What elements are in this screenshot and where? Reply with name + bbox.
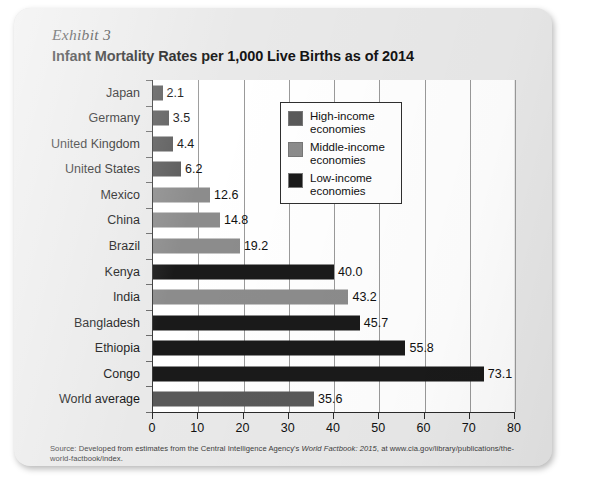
source-prefix: Source: Developed from estimates from th… (50, 444, 302, 453)
x-axis-tick-label: 10 (190, 421, 204, 435)
bar-value-label: 45.7 (364, 316, 388, 330)
bar-value-label: 2.1 (167, 86, 184, 100)
bar (153, 162, 181, 177)
bar (153, 366, 484, 381)
x-axis-tick (288, 412, 289, 419)
bar (153, 239, 240, 254)
legend-swatch-icon (288, 142, 303, 157)
legend-swatch-icon (288, 173, 303, 188)
bar (153, 85, 163, 100)
category-tick (146, 259, 152, 260)
category-label: Brazil (109, 239, 140, 253)
category-label: Ethiopia (95, 341, 140, 355)
category-label: Mexico (100, 188, 140, 202)
category-label: United Kingdom (51, 137, 140, 151)
category-tick (146, 208, 152, 209)
category-label: Congo (103, 367, 140, 381)
category-tick (146, 386, 152, 387)
bar-value-label: 6.2 (185, 162, 202, 176)
x-axis-tick (152, 412, 153, 419)
category-label: World average (59, 392, 140, 406)
x-axis-tick (243, 412, 244, 419)
category-label: Japan (106, 86, 140, 100)
legend-item: High-incomeeconomies (288, 110, 394, 135)
category-label: Kenya (105, 265, 140, 279)
category-tick (146, 361, 152, 362)
category-tick (146, 310, 152, 311)
category-label: China (107, 213, 140, 227)
category-tick (146, 182, 152, 183)
gridline (470, 80, 471, 412)
legend-label: Middle-incomeeconomies (310, 141, 385, 166)
category-tick (146, 233, 152, 234)
bar (153, 264, 334, 279)
bar (153, 136, 173, 151)
category-tick (146, 412, 152, 413)
bar-value-label: 73.1 (488, 367, 512, 381)
x-axis-tick-label: 70 (462, 421, 476, 435)
exhibit-page: Exhibit 3 Infant Mortality Rates per 1,0… (14, 8, 552, 466)
category-tick (146, 335, 152, 336)
x-axis-tick-label: 20 (236, 421, 250, 435)
category-tick (146, 80, 152, 81)
bar-value-label: 12.6 (214, 188, 238, 202)
bar-value-label: 3.5 (173, 111, 190, 125)
gridline (515, 80, 516, 412)
bar (153, 290, 348, 305)
bar-value-label: 4.4 (177, 137, 194, 151)
category-label: United States (65, 162, 140, 176)
x-axis-tick-label: 60 (417, 421, 431, 435)
category-label: India (113, 290, 140, 304)
bar-value-label: 19.2 (244, 239, 268, 253)
x-axis-tick (424, 412, 425, 419)
x-axis-tick-label: 80 (507, 421, 521, 435)
bar (153, 341, 405, 356)
chart-title: Infant Mortality Rates per 1,000 Live Bi… (52, 48, 414, 64)
bar-value-label: 40.0 (338, 265, 362, 279)
bar (153, 213, 220, 228)
bar (153, 187, 210, 202)
bar-value-label: 55.8 (409, 341, 433, 355)
category-label: Germany (89, 111, 140, 125)
legend-item: Middle-incomeeconomies (288, 141, 394, 166)
gridline (425, 80, 426, 412)
bar (153, 315, 360, 330)
category-tick (146, 106, 152, 107)
chart-plot-area: JapanGermanyUnited KingdomUnited StatesM… (32, 80, 532, 440)
legend-label: Low-incomeeconomies (310, 172, 372, 197)
bar-value-label: 14.8 (224, 213, 248, 227)
x-axis-tick (514, 412, 515, 419)
x-axis-tick (378, 412, 379, 419)
x-axis-tick (197, 412, 198, 419)
category-tick (146, 284, 152, 285)
x-axis-tick-label: 0 (149, 421, 156, 435)
x-axis-tick (333, 412, 334, 419)
category-tick (146, 157, 152, 158)
bar (153, 111, 169, 126)
source-italic-title: World Factbook: 2015 (302, 444, 377, 453)
legend-item: Low-incomeeconomies (288, 172, 394, 197)
x-axis-tick-label: 30 (281, 421, 295, 435)
category-axis: JapanGermanyUnited KingdomUnited StatesM… (32, 80, 146, 412)
category-label: Bangladesh (74, 316, 140, 330)
bar-value-label: 43.2 (352, 290, 376, 304)
exhibit-label: Exhibit 3 (52, 26, 111, 44)
bar-value-label: 35.6 (318, 392, 342, 406)
chart-legend: High-incomeeconomiesMiddle-incomeeconomi… (280, 102, 402, 204)
x-axis-tick-label: 40 (326, 421, 340, 435)
x-axis-tick (469, 412, 470, 419)
bar (153, 392, 314, 407)
category-tick (146, 131, 152, 132)
x-axis-tick-label: 50 (371, 421, 385, 435)
legend-label: High-incomeeconomies (310, 110, 375, 135)
legend-swatch-icon (288, 111, 303, 126)
source-note: Source: Developed from estimates from th… (50, 444, 530, 464)
